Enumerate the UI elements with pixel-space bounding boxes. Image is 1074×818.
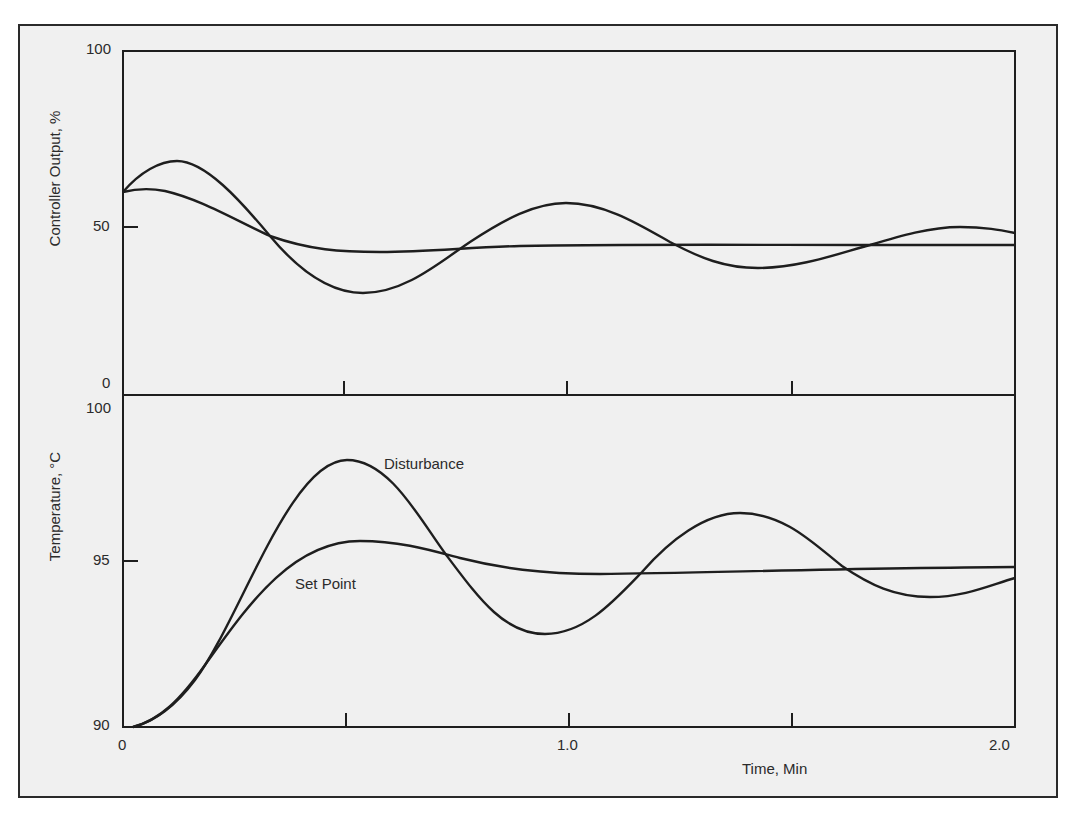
xtick-label-2: 2.0	[989, 736, 1010, 753]
lower-ylabel: Temperature, °C	[46, 447, 63, 567]
upper-ytick-label-0: 0	[102, 374, 110, 391]
upper-ytick-label-100: 100	[86, 40, 111, 57]
chart-canvas	[0, 0, 1074, 818]
upper-xticks	[344, 381, 792, 395]
xlabel: Time, Min	[742, 760, 807, 777]
lower-disturbance-curve	[133, 460, 1015, 727]
lower-xticks	[346, 713, 792, 727]
lower-plot-area	[123, 395, 1015, 727]
upper-ylabel: Controller Output, %	[46, 99, 63, 259]
xtick-label-0: 0	[118, 736, 126, 753]
upper-ytick-label-50: 50	[93, 217, 110, 234]
upper-plot-area	[123, 51, 1015, 395]
lower-setpoint-curve	[133, 541, 1015, 727]
annotation-set-point: Set Point	[295, 575, 356, 592]
annotation-disturbance: Disturbance	[384, 455, 464, 472]
lower-ytick-label-90: 90	[93, 716, 110, 733]
lower-ytick-label-95: 95	[93, 551, 110, 568]
xtick-label-1: 1.0	[557, 736, 578, 753]
lower-ytick-label-100: 100	[86, 399, 111, 416]
upper-disturbance-curve	[123, 161, 1015, 293]
